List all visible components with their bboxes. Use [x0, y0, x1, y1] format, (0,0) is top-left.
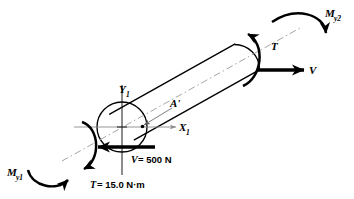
rod-centerline [62, 28, 300, 161]
rod-axis-line [62, 28, 300, 161]
label-moment-near: M y1 [6, 166, 23, 182]
moment-near-arrow [28, 170, 68, 186]
moment-near-curve [28, 170, 68, 186]
axis-y-subscript: 1 [126, 90, 130, 99]
moment-far-subscript: y2 [333, 14, 341, 23]
shear-value-text: = 500 N [138, 154, 172, 165]
label-axis-x: X 1 [178, 121, 190, 137]
moment-far-curve [272, 13, 326, 33]
moment-near-subscript: y1 [15, 173, 23, 182]
axis-x-subscript: 1 [186, 128, 190, 137]
label-point-a: A' [169, 97, 180, 109]
moment-far-arrow [272, 13, 326, 33]
torque-value-symbol: T [90, 179, 97, 190]
figure-canvas: M y2 M y1 T V A' Y 1 X 1 V = 500 N [0, 0, 354, 199]
label-moment-far: M y2 [324, 7, 341, 23]
torque-value-text: = 15.0 N·m [97, 179, 145, 190]
label-torque-far: T [271, 40, 279, 52]
mechanics-figure: M y2 M y1 T V A' Y 1 X 1 V = 500 N [0, 0, 354, 199]
point-a-marker [141, 125, 145, 129]
label-torque-value: T = 15.0 N·m [90, 179, 145, 190]
label-axis-y: Y 1 [119, 83, 130, 99]
label-shear-far: V [309, 64, 318, 76]
label-shear-value: V = 500 N [131, 154, 172, 165]
